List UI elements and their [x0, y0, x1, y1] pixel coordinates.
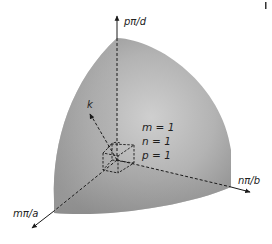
n-axis-arrow [231, 187, 250, 192]
m-axis-label: mπ/a [13, 208, 38, 219]
n-axis-label: nπ/b [238, 175, 260, 186]
corner-mark [265, 2, 267, 9]
p-axis-label: pπ/d [123, 16, 147, 27]
m-index-label: m = 1 [142, 121, 174, 133]
n-index-label: n = 1 [142, 135, 171, 147]
p-index-label: p = 1 [141, 149, 171, 161]
k-space-octant-diagram: pπ/d nπ/b mπ/a k m = 1 n = 1 p = 1 [0, 0, 272, 244]
